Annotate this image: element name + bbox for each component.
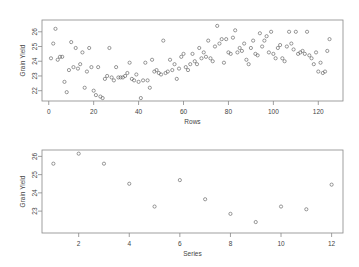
x-tick-label: 80 xyxy=(225,108,233,115)
x-tick-label: 0 xyxy=(47,108,51,115)
data-point xyxy=(103,77,106,80)
data-point xyxy=(180,55,183,58)
data-point xyxy=(202,51,205,54)
x-tick-label: 40 xyxy=(135,108,143,115)
plot-frame xyxy=(42,20,343,101)
data-point xyxy=(270,30,273,33)
data-point xyxy=(207,39,210,42)
data-point xyxy=(97,66,100,69)
data-point xyxy=(317,70,320,73)
data-point xyxy=(63,80,66,83)
data-point xyxy=(83,86,86,89)
data-point xyxy=(204,198,207,201)
data-point xyxy=(279,205,282,208)
data-point xyxy=(265,35,268,38)
data-point xyxy=(220,38,223,41)
data-point xyxy=(225,38,228,41)
data-point xyxy=(92,89,95,92)
data-point xyxy=(305,30,308,33)
y-tick-label: 23 xyxy=(31,207,38,215)
data-point xyxy=(182,52,185,55)
data-point xyxy=(126,71,129,74)
data-point xyxy=(184,66,187,69)
data-point xyxy=(128,182,131,185)
data-point xyxy=(310,57,313,60)
y-tick-label: 24 xyxy=(31,189,38,197)
x-tick-label: 6 xyxy=(178,240,182,247)
data-point xyxy=(141,79,144,82)
data-point xyxy=(76,67,79,70)
x-tick-label: 4 xyxy=(127,240,131,247)
data-point xyxy=(236,51,239,54)
data-point xyxy=(247,63,250,66)
data-point xyxy=(79,63,82,66)
y-tick-label: 24 xyxy=(31,57,38,65)
plot-frame xyxy=(42,150,343,233)
x-tick-label: 8 xyxy=(229,240,233,247)
data-point xyxy=(153,205,156,208)
data-point xyxy=(252,39,255,42)
data-point xyxy=(267,51,270,54)
data-point xyxy=(222,61,225,64)
x-tick-label: 120 xyxy=(313,108,324,115)
data-point xyxy=(49,57,52,60)
data-point xyxy=(177,67,180,70)
data-point xyxy=(211,60,214,63)
y-tick-label: 25 xyxy=(31,43,38,51)
data-point xyxy=(254,220,257,223)
y-axis-label: Grain Yield xyxy=(19,175,26,207)
x-tick-label: 2 xyxy=(77,240,81,247)
data-point xyxy=(216,24,219,27)
data-point xyxy=(195,63,198,66)
data-point xyxy=(243,42,246,45)
data-point xyxy=(144,61,147,64)
data-point xyxy=(186,68,189,71)
x-tick-label: 12 xyxy=(328,240,336,247)
x-axis-label: Rows xyxy=(184,118,201,125)
data-point xyxy=(115,66,118,69)
data-point xyxy=(249,46,252,49)
data-point xyxy=(74,46,77,49)
data-point xyxy=(209,57,212,60)
data-point xyxy=(314,51,317,54)
data-point xyxy=(162,39,165,42)
data-point xyxy=(312,63,315,66)
data-point xyxy=(110,76,113,79)
data-point xyxy=(245,58,248,61)
data-point xyxy=(175,77,178,80)
data-point xyxy=(173,63,176,66)
data-point xyxy=(305,208,308,211)
data-point xyxy=(128,61,131,64)
data-point xyxy=(326,49,329,52)
data-point xyxy=(88,46,91,49)
data-point xyxy=(198,46,201,49)
data-point xyxy=(139,96,142,99)
data-point xyxy=(94,94,97,97)
x-tick-label: 100 xyxy=(268,108,279,115)
data-point xyxy=(218,42,221,45)
data-point xyxy=(234,29,237,32)
data-point xyxy=(330,183,333,186)
data-point xyxy=(204,55,207,58)
data-point xyxy=(52,42,55,45)
data-point xyxy=(238,46,241,49)
data-point xyxy=(67,68,70,71)
data-point xyxy=(272,52,275,55)
data-point xyxy=(146,79,149,82)
data-point xyxy=(279,43,282,46)
data-point xyxy=(193,60,196,63)
data-point xyxy=(72,66,75,69)
data-point xyxy=(77,152,80,155)
data-point xyxy=(292,48,295,51)
x-tick-label: 10 xyxy=(277,240,285,247)
data-point xyxy=(229,212,232,215)
y-axis-label: Grain Yield xyxy=(19,44,26,76)
data-point xyxy=(283,60,286,63)
x-tick-label: 20 xyxy=(90,108,98,115)
data-point xyxy=(290,42,293,45)
y-tick-label: 26 xyxy=(31,152,38,160)
series-scatter-plot: 2468101223242526SeriesGrain Yield xyxy=(0,135,359,267)
data-point xyxy=(258,32,261,35)
data-point xyxy=(285,45,288,48)
data-point xyxy=(150,58,153,61)
